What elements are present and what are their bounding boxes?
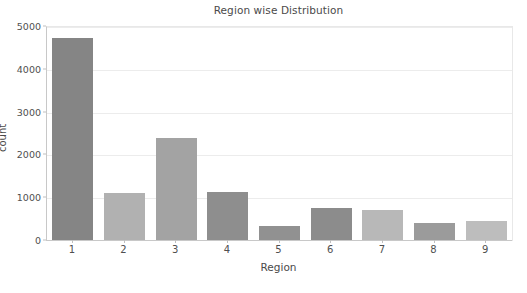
x-tick-mark-3	[175, 240, 176, 243]
x-tick-label-9: 9	[465, 244, 505, 255]
bar-region-5[interactable]	[259, 226, 300, 241]
x-tick-label-1: 1	[52, 244, 92, 255]
y-tick-label-5000: 5000	[1, 21, 41, 32]
x-tick-label-6: 6	[310, 244, 350, 255]
bar-region-4[interactable]	[207, 192, 248, 241]
bar-region-8[interactable]	[414, 223, 455, 241]
x-tick-mark-9	[485, 240, 486, 243]
plot-area	[46, 26, 513, 241]
bar-region-9[interactable]	[466, 221, 507, 241]
x-tick-mark-8	[434, 240, 435, 243]
bar-region-2[interactable]	[104, 193, 145, 241]
x-tick-mark-7	[382, 240, 383, 243]
x-tick-label-4: 4	[207, 244, 247, 255]
gridline-y-5000	[47, 27, 512, 28]
gridline-y-3000	[47, 113, 512, 114]
y-tick-mark-2000	[43, 154, 46, 155]
y-tick-mark-3000	[43, 111, 46, 112]
gridline-y-2000	[47, 155, 512, 156]
x-tick-label-2: 2	[104, 244, 144, 255]
x-tick-mark-4	[227, 240, 228, 243]
y-tick-label-3000: 3000	[1, 106, 41, 117]
y-axis-label: count	[0, 124, 8, 152]
y-tick-mark-4000	[43, 68, 46, 69]
bar-region-3[interactable]	[156, 138, 197, 241]
y-tick-label-4000: 4000	[1, 63, 41, 74]
chart-title: Region wise Distribution	[46, 4, 511, 16]
x-tick-mark-1	[72, 240, 73, 243]
x-tick-label-8: 8	[414, 244, 454, 255]
y-tick-mark-0	[43, 240, 46, 241]
x-tick-mark-2	[124, 240, 125, 243]
bar-chart-figure: Region wise Distribution 010002000300040…	[0, 0, 527, 293]
x-tick-label-3: 3	[155, 244, 195, 255]
x-tick-mark-6	[330, 240, 331, 243]
y-tick-mark-5000	[43, 26, 46, 27]
y-tick-label-0: 0	[1, 235, 41, 246]
bar-region-1[interactable]	[52, 38, 93, 241]
gridline-y-4000	[47, 70, 512, 71]
x-tick-label-7: 7	[362, 244, 402, 255]
x-tick-label-5: 5	[259, 244, 299, 255]
x-tick-mark-5	[279, 240, 280, 243]
plot-inner	[47, 27, 512, 241]
x-axis-label: Region	[46, 261, 511, 273]
bar-region-6[interactable]	[311, 208, 352, 241]
y-tick-mark-1000	[43, 197, 46, 198]
y-tick-label-1000: 1000	[1, 192, 41, 203]
bar-region-7[interactable]	[362, 210, 403, 241]
